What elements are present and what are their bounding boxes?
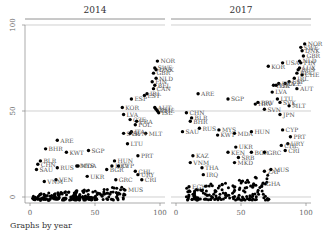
data-point [241,180,244,183]
data-point [108,193,111,196]
data-point [300,49,303,52]
point-label: IRQ [206,171,218,178]
data-point [103,188,106,191]
data-point [255,195,258,198]
point-label: ESP [134,95,147,102]
data-point [84,194,87,197]
data-point [152,71,155,74]
data-point [287,104,290,107]
data-point [274,84,277,87]
data-point [284,149,287,152]
point-label: ARE [59,137,73,144]
data-point [224,182,227,185]
data-point [200,166,203,169]
point-label: EST [147,92,160,99]
data-point [226,97,229,100]
data-point [215,195,218,198]
data-point [208,184,211,187]
point-label: MLT [292,102,306,109]
data-point [65,151,68,154]
data-point [267,65,270,68]
data-point [248,194,251,197]
data-point [81,195,84,198]
data-point [105,197,108,200]
data-point [299,46,302,49]
x-tick-label: 50 [91,209,100,217]
data-point [181,130,184,133]
point-label: ISL [162,109,172,116]
data-point [196,92,199,95]
point-label: BGR [110,166,124,173]
panel-2017: 2017050100NORSWEDNKGBRNLDFINUSAKORRUSLUX… [171,5,323,217]
data-point [151,80,154,83]
data-point [86,175,89,178]
data-point [121,106,124,109]
data-point [266,197,269,200]
data-point [130,97,133,100]
point-label: SVN [133,130,147,137]
data-point [261,182,264,185]
data-point [128,118,131,121]
data-point [188,189,191,192]
data-point [221,183,224,186]
point-label: KWT [221,131,235,138]
data-point [116,192,119,195]
y-tick-label: 50 [9,107,17,116]
point-label: KWT [69,149,83,156]
data-point [102,198,105,201]
point-label: UKR [90,173,105,180]
data-point [189,120,192,123]
data-point [156,59,159,62]
data-point [191,154,194,157]
point-label: GHA [266,180,281,187]
data-point [206,194,209,197]
data-point [218,184,221,187]
data-point [187,185,190,188]
point-label: HUN [254,128,270,135]
data-point [56,139,59,142]
data-point [112,191,115,194]
point-label: PRT [141,152,153,159]
data-point [281,128,284,131]
point-label: BHR [49,145,64,152]
data-point [209,198,212,201]
data-point [227,186,230,189]
point-label: LTU [131,140,144,147]
y-tick-label: 0 [9,195,17,199]
panel-title: 2014 [84,5,107,15]
data-point [189,161,192,164]
data-point [67,191,70,194]
data-point [203,198,206,201]
data-point [276,97,279,100]
data-point [56,166,59,169]
data-point [41,196,44,199]
data-point [85,190,88,193]
data-point [280,144,283,147]
point-label: USA [286,59,300,66]
point-label: CRI [145,176,157,183]
data-point [211,184,214,187]
graphs-by-caption: Graphs by year [10,221,72,230]
point-label: RUS [202,125,216,132]
data-point [295,87,298,90]
data-point [105,192,108,195]
data-point [72,194,75,197]
data-point [82,198,85,201]
y-tick-label: 100 [9,18,17,31]
point-label: SVN [267,106,281,113]
data-point [262,193,265,196]
panels: 2014050100050100NORSWEDNKGBRNLDFINBELCAN… [9,5,323,217]
data-point [232,197,235,200]
data-point [269,168,272,171]
data-point [233,189,236,192]
point-label: SAU [186,128,200,135]
data-point [216,133,219,136]
data-point [35,168,38,171]
point-label: MUS [274,166,289,173]
data-point [112,198,115,201]
data-point [228,197,231,200]
data-point [78,195,81,198]
data-point [237,196,240,199]
data-point [245,186,248,189]
data-point [198,127,201,130]
